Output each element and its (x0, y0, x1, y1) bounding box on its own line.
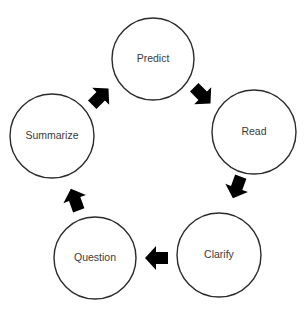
arrow-clarify-to-question-icon (145, 246, 168, 270)
summarize-label: Summarize (25, 129, 78, 141)
arrow-question-to-summarize-icon (60, 185, 90, 215)
predict-label: Predict (137, 52, 170, 64)
node-summarize: Summarize (10, 94, 94, 178)
node-predict: Predict (112, 18, 194, 100)
arrow-read-to-clarify-icon (222, 173, 252, 203)
read-label: Read (241, 125, 266, 137)
reading-strategy-cycle-diagram: Predict Read Clarify Question Summarize (0, 0, 306, 313)
node-clarify: Clarify (177, 213, 261, 297)
arrow-summarize-to-predict-icon (84, 80, 117, 113)
node-read: Read (212, 90, 296, 174)
arrow-predict-to-read-icon (186, 79, 219, 112)
question-label: Question (74, 251, 116, 263)
node-question: Question (54, 217, 136, 299)
clarify-label: Clarify (204, 248, 235, 260)
